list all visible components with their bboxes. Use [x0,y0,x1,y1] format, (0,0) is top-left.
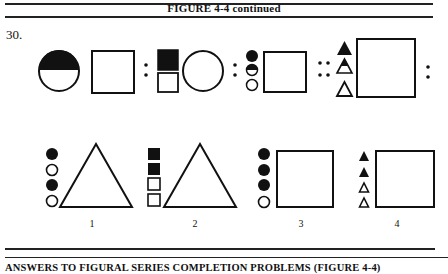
black-triangle-icon [359,167,369,177]
footer-section-title: ANSWERS TO FIGURAL SERIES COMPLETION PRO… [5,262,381,273]
white-circle-icon [47,196,58,207]
square-icon [376,151,434,207]
white-triangle-icon [360,183,369,192]
white-circle-icon [47,165,58,176]
black-triangle-icon [337,41,352,55]
black-circle-icon [46,179,58,191]
triangle-icon [60,144,132,207]
option-label-3: 3 [291,218,311,229]
black-triangle-icon [359,151,369,161]
black-circle-icon [258,148,270,160]
white-circle-icon [259,197,270,208]
analogy-term-a1 [39,50,134,93]
analogy-term-b2 [337,39,415,97]
option-label-1: 1 [82,218,102,229]
white-circle-icon [247,80,258,91]
black-square-icon [158,50,178,70]
white-square-icon [158,73,178,92]
answer-option-2[interactable] [148,144,236,207]
black-circle-icon [258,179,270,191]
footer-top-rule [5,257,448,258]
analogy-term-a2 [158,50,223,92]
option-label-2: 2 [185,218,205,229]
black-circle-icon [258,164,270,176]
white-triangle-icon [337,82,352,96]
large-square-icon [357,39,415,97]
colon-separator-2 [233,63,237,77]
double-colon-separator [318,61,330,77]
square-icon [92,51,134,93]
black-circle-icon [46,148,58,160]
answer-option-3[interactable] [258,148,333,208]
circle-icon [183,51,223,91]
analogy-term-b1 [246,50,306,92]
answer-option-4[interactable] [359,151,434,207]
white-square-icon [148,194,160,206]
black-circle-icon [246,50,258,62]
black-square-icon [148,163,160,175]
square-icon [277,151,333,207]
colon-separator-3 [426,65,430,79]
triangle-icon [164,144,236,207]
section-bottom-rule [5,248,435,250]
black-square-icon [148,148,160,160]
white-square-icon [148,178,160,190]
white-triangle-icon [360,198,369,207]
colon-separator-1 [144,63,148,77]
square-icon [264,52,306,92]
answer-option-1[interactable] [46,144,132,207]
option-label-4: 4 [387,218,407,229]
analogy-figure [0,0,448,274]
